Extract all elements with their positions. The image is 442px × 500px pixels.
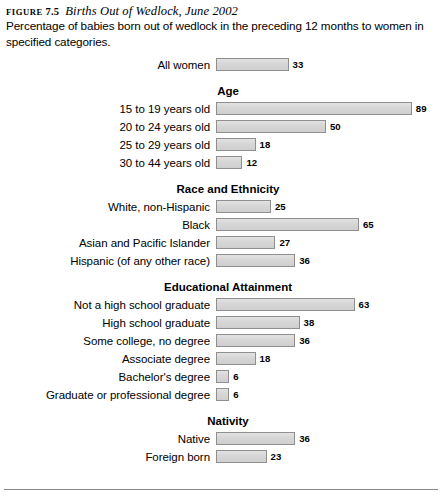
- bar: [216, 370, 229, 383]
- section-title: Nativity: [0, 413, 442, 430]
- bar-row: Not a high school graduate63: [0, 296, 442, 314]
- chart-section: All women33: [0, 56, 442, 74]
- bar-row-label: Hispanic (of any other race): [0, 252, 210, 270]
- bar-row-label: Some college, no degree: [0, 332, 210, 350]
- bar-value-label: 65: [363, 218, 374, 231]
- bar-container: 36: [216, 334, 295, 348]
- bar-row-label: Bachelor's degree: [0, 368, 210, 386]
- bar-row-label: Associate degree: [0, 350, 210, 368]
- bar-container: 12: [216, 156, 242, 170]
- bar-row: Asian and Pacific Islander27: [0, 234, 442, 252]
- bar-row: Associate degree18: [0, 350, 442, 368]
- bar-row-label: Graduate or professional degree: [0, 386, 210, 404]
- section-title: Age: [0, 83, 442, 100]
- bar-value-label: 27: [279, 236, 290, 249]
- bar-value-label: 63: [359, 298, 370, 311]
- bar-container: 25: [216, 200, 271, 214]
- bar-container: 36: [216, 254, 295, 268]
- bar-row: 15 to 19 years old89: [0, 100, 442, 118]
- bar-container: 63: [216, 298, 355, 312]
- bottom-divider: [4, 489, 438, 490]
- section-title: Educational Attainment: [0, 279, 442, 296]
- bar: [216, 156, 242, 169]
- bar-value-label: 23: [271, 450, 282, 463]
- bar-value-label: 12: [246, 156, 257, 169]
- bar: [216, 298, 355, 311]
- bar-row-label: Not a high school graduate: [0, 296, 210, 314]
- bar-value-label: 50: [330, 120, 341, 133]
- bar-container: 27: [216, 236, 275, 250]
- chart-section: NativityNative36Foreign born23: [0, 413, 442, 466]
- bar-value-label: 38: [304, 316, 315, 329]
- bar-chart: All women33Age15 to 19 years old8920 to …: [0, 56, 442, 466]
- bar-row: Hispanic (of any other race)36: [0, 252, 442, 270]
- bar-row: Foreign born23: [0, 448, 442, 466]
- bar-value-label: 89: [416, 102, 427, 115]
- bar-container: 65: [216, 218, 359, 232]
- bar-row: Some college, no degree36: [0, 332, 442, 350]
- bar-row-label: 30 to 44 years old: [0, 154, 210, 172]
- bar-value-label: 25: [275, 200, 286, 213]
- figure-label: FIGURE 7.5: [6, 6, 59, 17]
- chart-section: Race and EthnicityWhite, non-Hispanic25B…: [0, 181, 442, 270]
- bar: [216, 120, 326, 133]
- section-spacer: [0, 172, 442, 181]
- bar-row: All women33: [0, 56, 442, 74]
- bar-row: Native36: [0, 430, 442, 448]
- bar: [216, 200, 271, 213]
- section-spacer: [0, 74, 442, 83]
- bar-value-label: 18: [260, 138, 271, 151]
- bar-container: 50: [216, 120, 326, 134]
- bar: [216, 388, 229, 401]
- bar-row-label: 20 to 24 years old: [0, 118, 210, 136]
- bar-container: 36: [216, 432, 295, 446]
- section-title: Race and Ethnicity: [0, 181, 442, 198]
- figure-label-word: FIGURE: [6, 7, 43, 17]
- bar: [216, 102, 412, 115]
- section-spacer: [0, 404, 442, 413]
- bar-value-label: 36: [299, 334, 310, 347]
- bar: [216, 254, 295, 267]
- bar-row: Black65: [0, 216, 442, 234]
- bar-row: 30 to 44 years old12: [0, 154, 442, 172]
- bar: [216, 432, 295, 445]
- bar-row-label: All women: [0, 56, 210, 74]
- bar-row: White, non-Hispanic25: [0, 198, 442, 216]
- bar-row-label: Native: [0, 430, 210, 448]
- bar-row-label: Asian and Pacific Islander: [0, 234, 210, 252]
- figure-caption: FIGURE 7.5Births Out of Wedlock, June 20…: [6, 1, 436, 19]
- figure-subtitle: Percentage of babies born out of wedlock…: [6, 18, 434, 49]
- bar-row: Bachelor's degree6: [0, 368, 442, 386]
- bar-row: 25 to 29 years old18: [0, 136, 442, 154]
- bar-container: 38: [216, 316, 300, 330]
- bar-container: 6: [216, 388, 229, 402]
- bar-row-label: White, non-Hispanic: [0, 198, 210, 216]
- bar-container: 18: [216, 138, 256, 152]
- bar-row-label: 15 to 19 years old: [0, 100, 210, 118]
- bar: [216, 334, 295, 347]
- bar-value-label: 36: [299, 432, 310, 445]
- bar-value-label: 33: [293, 58, 304, 71]
- bar: [216, 450, 267, 463]
- section-spacer: [0, 270, 442, 279]
- bar-value-label: 36: [299, 254, 310, 267]
- bar: [216, 138, 256, 151]
- bar-row-label: 25 to 29 years old: [0, 136, 210, 154]
- bar-container: 23: [216, 450, 267, 464]
- figure-title: Births Out of Wedlock, June 2002: [65, 4, 238, 18]
- bar: [216, 58, 289, 71]
- bar-container: 89: [216, 102, 412, 116]
- bar-row: Graduate or professional degree6: [0, 386, 442, 404]
- chart-section: Age15 to 19 years old8920 to 24 years ol…: [0, 83, 442, 172]
- figure-label-number: 7.5: [46, 6, 60, 17]
- bar-container: 6: [216, 370, 229, 384]
- bar: [216, 316, 300, 329]
- bar: [216, 218, 359, 231]
- bar-container: 18: [216, 352, 256, 366]
- bar-value-label: 6: [233, 388, 238, 401]
- bar-row-label: Foreign born: [0, 448, 210, 466]
- bar-container: 33: [216, 58, 289, 72]
- chart-section: Educational AttainmentNot a high school …: [0, 279, 442, 404]
- bar-value-label: 18: [260, 352, 271, 365]
- bar-row: 20 to 24 years old50: [0, 118, 442, 136]
